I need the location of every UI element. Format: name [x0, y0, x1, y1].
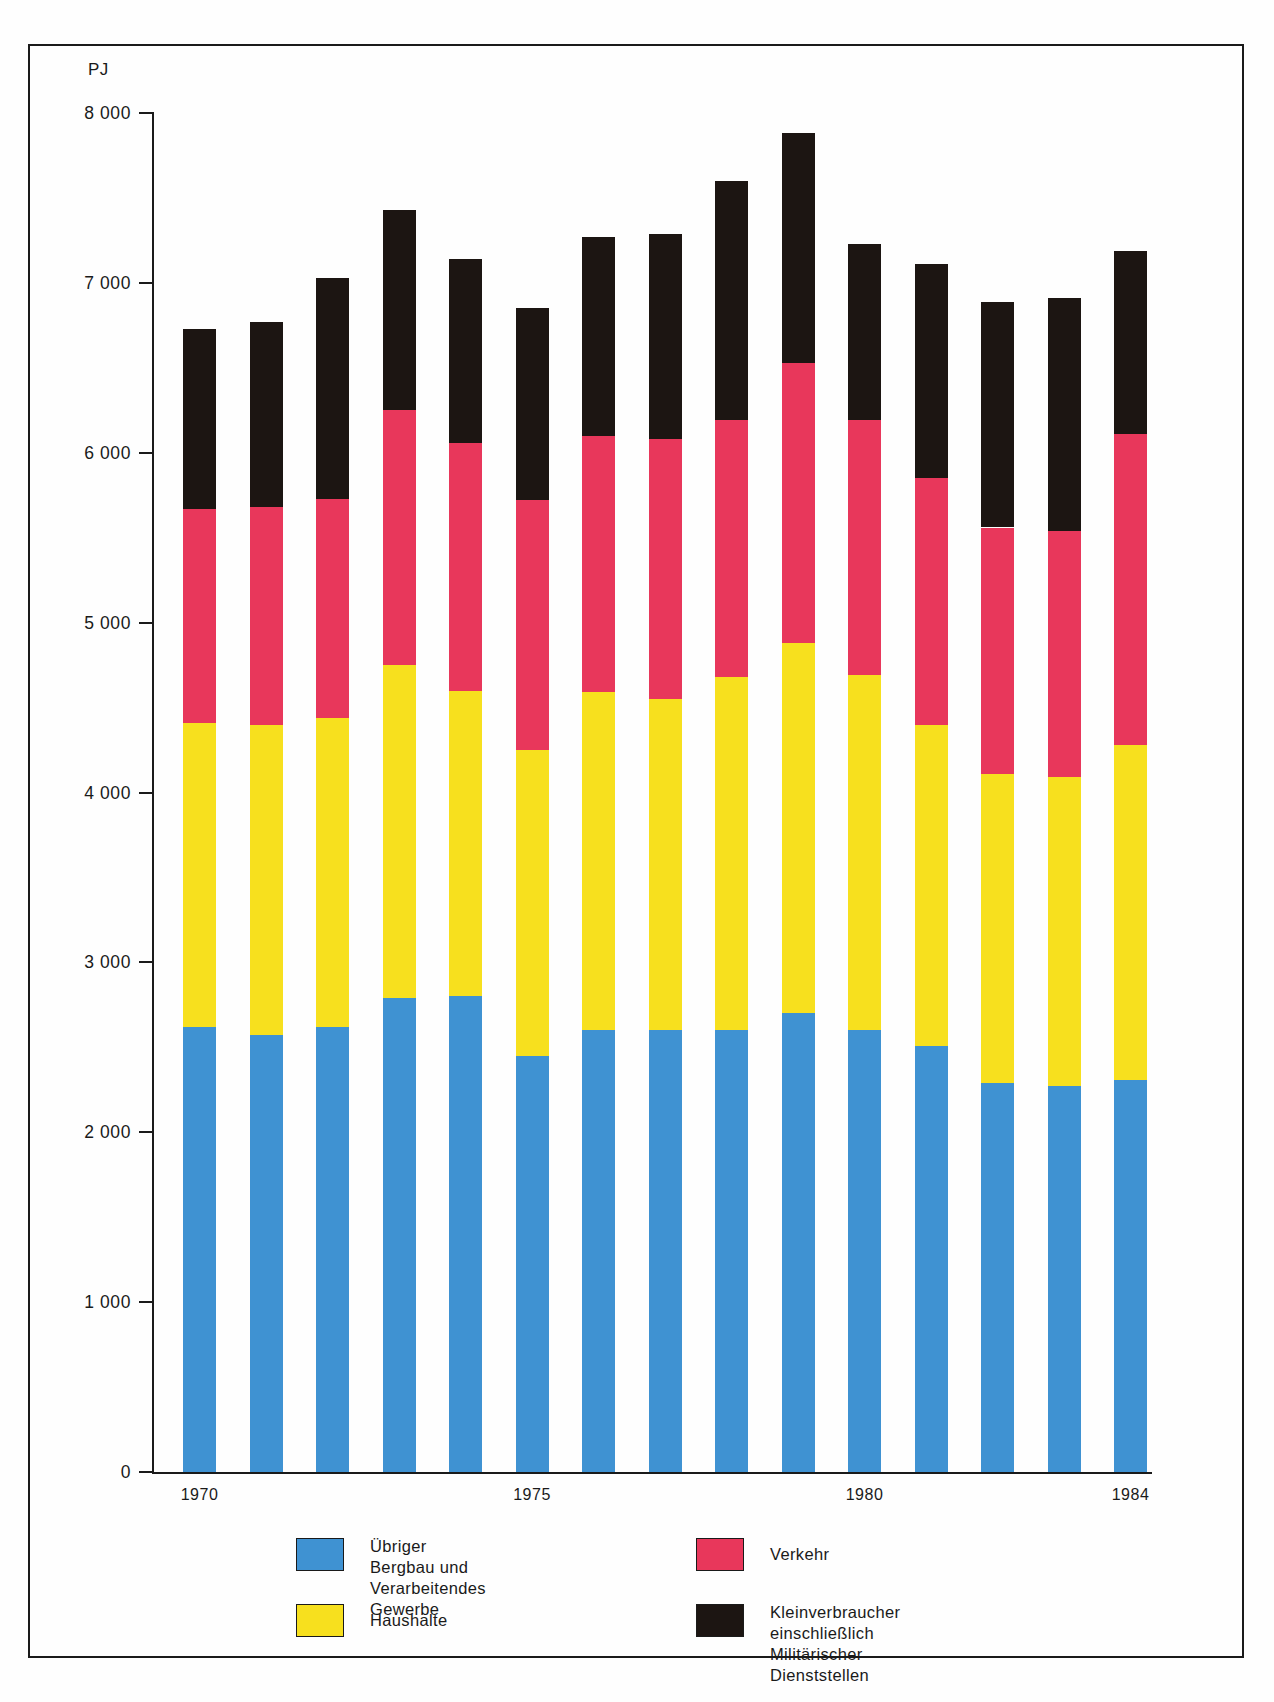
y-tick-label-8000: 8 000	[0, 103, 131, 124]
y-tick-3000	[139, 961, 154, 963]
stacked-bar-chart: PJ 01 0002 0003 0004 0005 0006 0007 0008…	[0, 0, 1274, 1702]
bar-segment	[582, 692, 615, 1030]
bar-segment	[782, 1013, 815, 1472]
page-frame: PJ 01 0002 0003 0004 0005 0006 0007 0008…	[0, 0, 1274, 1702]
bar-segment	[1114, 434, 1147, 745]
bar-1984	[1114, 251, 1147, 1472]
y-tick-label-1000: 1 000	[0, 1292, 131, 1313]
bar-segment	[516, 308, 549, 500]
bar-segment	[649, 1030, 682, 1472]
legend-blue-swatch	[296, 1538, 344, 1571]
bar-segment	[316, 278, 349, 499]
bar-1972	[316, 278, 349, 1472]
x-tick-label-1980: 1980	[846, 1486, 884, 1504]
legend-blue-label: Übriger Bergbau und Verarbeitendes Gewer…	[370, 1536, 486, 1620]
bar-segment	[516, 500, 549, 750]
bar-1971	[250, 322, 283, 1472]
bar-segment	[848, 244, 881, 421]
bar-segment	[649, 699, 682, 1030]
bar-segment	[782, 363, 815, 643]
y-tick-8000	[139, 112, 154, 114]
bar-segment	[449, 443, 482, 691]
legend-yellow-swatch	[296, 1604, 344, 1637]
bar-segment	[1114, 251, 1147, 434]
y-tick-2000	[139, 1131, 154, 1133]
bar-segment	[848, 1030, 881, 1472]
y-tick-label-6000: 6 000	[0, 443, 131, 464]
bar-1975	[516, 308, 549, 1472]
bar-segment	[1114, 1080, 1147, 1472]
bar-segment	[582, 237, 615, 436]
bar-segment	[316, 1027, 349, 1472]
bar-segment	[183, 329, 216, 509]
bar-segment	[915, 1046, 948, 1472]
bar-segment	[316, 499, 349, 718]
y-tick-1000	[139, 1301, 154, 1303]
x-tick-label-1984: 1984	[1112, 1486, 1150, 1504]
bar-segment	[981, 528, 1014, 774]
bar-1973	[383, 210, 416, 1472]
chart-legend: Übriger Bergbau und Verarbeitendes Gewer…	[296, 1538, 1176, 1656]
bar-segment	[915, 478, 948, 724]
bar-segment	[1048, 1086, 1081, 1472]
bar-segment	[782, 133, 815, 362]
bar-segment	[981, 774, 1014, 1083]
y-tick-label-0: 0	[0, 1462, 131, 1483]
bar-1978	[715, 181, 748, 1472]
bar-segment	[250, 725, 283, 1036]
bar-1979	[782, 133, 815, 1472]
bar-1981	[915, 264, 948, 1472]
bar-segment	[1048, 531, 1081, 777]
bar-segment	[383, 665, 416, 998]
legend-black-swatch	[696, 1604, 744, 1637]
bar-segment	[516, 750, 549, 1056]
bar-1983	[1048, 298, 1081, 1472]
bar-1976	[582, 237, 615, 1472]
y-tick-label-3000: 3 000	[0, 952, 131, 973]
bar-1980	[848, 244, 881, 1472]
bar-segment	[1048, 298, 1081, 531]
bar-segment	[250, 507, 283, 724]
bar-segment	[383, 410, 416, 665]
bar-segment	[383, 998, 416, 1472]
bar-segment	[449, 691, 482, 997]
bar-1970	[183, 329, 216, 1472]
bar-segment	[715, 420, 748, 677]
bar-segment	[782, 643, 815, 1013]
bar-segment	[649, 439, 682, 699]
y-tick-label-4000: 4 000	[0, 783, 131, 804]
x-axis-line	[152, 1472, 1152, 1474]
bar-segment	[715, 181, 748, 421]
y-tick-7000	[139, 282, 154, 284]
bar-segment	[516, 1056, 549, 1472]
bar-segment	[915, 264, 948, 478]
bar-segment	[848, 675, 881, 1030]
bar-segment	[449, 259, 482, 442]
bar-segment	[981, 302, 1014, 528]
y-tick-0	[139, 1471, 154, 1473]
bar-segment	[649, 234, 682, 440]
x-tick-label-1970: 1970	[181, 1486, 219, 1504]
bar-segment	[183, 723, 216, 1027]
legend-yellow-label: Haushalte	[370, 1610, 447, 1631]
bar-segment	[582, 1030, 615, 1472]
y-tick-label-7000: 7 000	[0, 273, 131, 294]
legend-red-swatch	[696, 1538, 744, 1571]
bar-segment	[383, 210, 416, 410]
legend-black-label: Kleinverbraucher einschließlich Militäri…	[770, 1602, 900, 1686]
legend-red-label: Verkehr	[770, 1544, 829, 1565]
x-tick-label-1975: 1975	[513, 1486, 551, 1504]
bar-segment	[449, 996, 482, 1472]
bar-1974	[449, 259, 482, 1472]
y-tick-label-5000: 5 000	[0, 613, 131, 634]
bar-segment	[715, 1030, 748, 1472]
bar-segment	[250, 322, 283, 507]
bar-segment	[1048, 777, 1081, 1086]
y-tick-4000	[139, 792, 154, 794]
bar-segment	[250, 1035, 283, 1472]
bar-segment	[715, 677, 748, 1030]
bar-segment	[1114, 745, 1147, 1080]
y-tick-6000	[139, 452, 154, 454]
bar-segment	[183, 509, 216, 723]
y-axis-line	[152, 113, 154, 1474]
